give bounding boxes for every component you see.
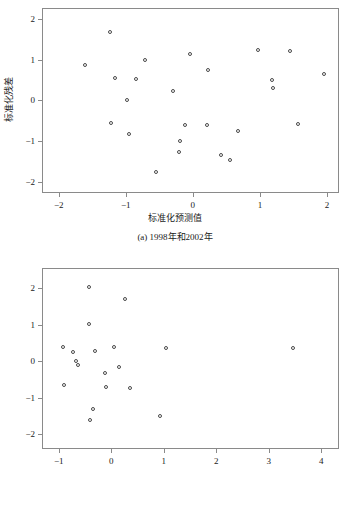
data-point [123, 297, 127, 301]
subfigure-caption-a: (a) 1998年和2002年 [0, 230, 350, 243]
data-points-layer-a [43, 9, 338, 192]
data-point [219, 153, 223, 157]
y-tick-mark [38, 182, 42, 183]
data-point [88, 418, 92, 422]
data-point [183, 123, 187, 127]
y-tick-mark [38, 288, 42, 289]
y-tick-label: −2 [20, 177, 35, 187]
data-point [291, 346, 295, 350]
x-tick-mark [59, 449, 60, 453]
data-point [228, 158, 232, 162]
y-tick-label: 0 [20, 356, 35, 366]
x-tick-label: 2 [214, 456, 219, 466]
data-point [296, 122, 300, 126]
data-point [134, 77, 138, 81]
x-tick-label: 1 [161, 456, 166, 466]
x-tick-mark [269, 449, 270, 453]
data-point [322, 72, 326, 76]
x-tick-label: 0 [109, 456, 114, 466]
y-axis-title-a: 标准化残差 [2, 70, 15, 130]
figure-a-scatter-1998-2002: −2−1012−2−1012 标准化预测值 标准化残差 (a) 1998年和20… [0, 0, 350, 250]
y-tick-label: −2 [20, 429, 35, 439]
data-point [206, 68, 210, 72]
y-tick-label: 1 [20, 320, 35, 330]
data-point [205, 123, 209, 127]
data-point [109, 121, 113, 125]
x-tick-label: −2 [54, 200, 64, 210]
data-point [71, 350, 75, 354]
data-point [171, 89, 175, 93]
data-point [256, 48, 260, 52]
data-point [61, 345, 65, 349]
y-tick-label: −1 [20, 136, 35, 146]
data-points-layer-b [43, 269, 338, 448]
data-point [270, 78, 274, 82]
figure-b-scatter-2004: −101234−2−1012 标准化预测值 标准化残差 (b) 2004年 [0, 250, 350, 511]
x-tick-mark [111, 449, 112, 453]
data-point [128, 386, 132, 390]
y-tick-mark [38, 60, 42, 61]
x-tick-mark [59, 193, 60, 197]
data-point [108, 30, 112, 34]
x-tick-mark [216, 449, 217, 453]
data-point [103, 371, 107, 375]
x-axis-title-a: 标准化预测值 [0, 211, 350, 224]
x-tick-mark [126, 193, 127, 197]
x-tick-mark [193, 193, 194, 197]
y-tick-mark [38, 398, 42, 399]
y-tick-mark [38, 19, 42, 20]
y-tick-label: 2 [20, 14, 35, 24]
data-point [62, 383, 66, 387]
data-point [164, 346, 168, 350]
x-tick-label: 1 [258, 200, 263, 210]
data-point [288, 49, 292, 53]
x-tick-label: 2 [325, 200, 330, 210]
data-point [125, 98, 129, 102]
y-tick-mark [38, 361, 42, 362]
data-point [113, 76, 117, 80]
data-point [236, 129, 240, 133]
x-tick-mark [321, 449, 322, 453]
data-point [127, 132, 131, 136]
data-point [158, 414, 162, 418]
x-tick-mark [327, 193, 328, 197]
data-point [91, 407, 95, 411]
data-point [76, 363, 80, 367]
plot-area-a [42, 8, 339, 193]
data-point [104, 385, 108, 389]
data-point [83, 63, 87, 67]
x-tick-mark [260, 193, 261, 197]
data-point [178, 139, 182, 143]
data-point [177, 150, 181, 154]
x-tick-label: 0 [191, 200, 196, 210]
data-point [93, 349, 97, 353]
y-tick-mark [38, 325, 42, 326]
data-point [271, 86, 275, 90]
x-tick-label: −1 [54, 456, 64, 466]
data-point [117, 365, 121, 369]
y-tick-label: 0 [20, 95, 35, 105]
x-tick-label: −1 [121, 200, 131, 210]
y-tick-mark [38, 434, 42, 435]
y-tick-mark [38, 141, 42, 142]
data-point [87, 285, 91, 289]
x-tick-label: 3 [266, 456, 271, 466]
data-point [112, 345, 116, 349]
data-point [154, 170, 158, 174]
y-tick-label: −1 [20, 393, 35, 403]
plot-area-b [42, 268, 339, 449]
y-tick-label: 2 [20, 283, 35, 293]
y-tick-mark [38, 100, 42, 101]
x-tick-label: 4 [319, 456, 324, 466]
y-tick-label: 1 [20, 55, 35, 65]
data-point [143, 58, 147, 62]
data-point [188, 52, 192, 56]
data-point [87, 322, 91, 326]
x-tick-mark [164, 449, 165, 453]
